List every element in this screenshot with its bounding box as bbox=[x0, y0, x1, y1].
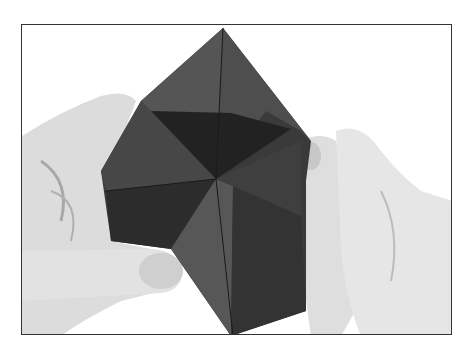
photo bbox=[22, 25, 452, 335]
photo-frame bbox=[21, 24, 452, 335]
right-hand bbox=[301, 129, 452, 336]
